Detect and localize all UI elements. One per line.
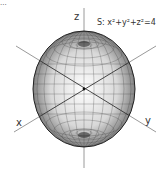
x-axis-label: x	[16, 117, 22, 128]
z-axis-label: z	[74, 11, 79, 22]
y-axis-label: y	[145, 115, 151, 126]
origin-point	[83, 88, 86, 91]
equation-label: S: x²+y²+z²=4	[97, 18, 156, 27]
sphere-diagram: z x y S: x²+y²+z²=4	[0, 0, 167, 171]
